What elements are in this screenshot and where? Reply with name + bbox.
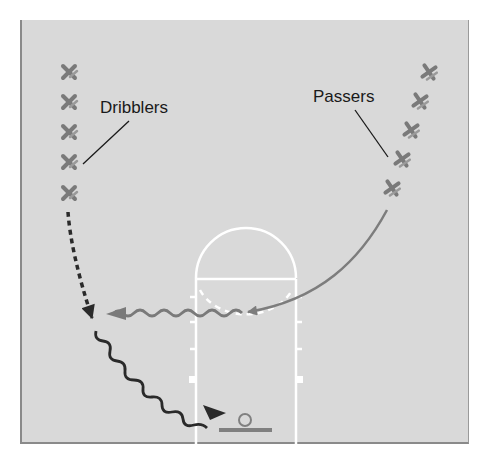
passers-leader-line — [355, 110, 388, 157]
dribble-arrowhead — [203, 405, 226, 420]
passer-markers — [381, 61, 440, 199]
dribbler-x-icon — [63, 187, 77, 199]
passer-plus-icon — [400, 119, 422, 141]
dribbler-x-icon — [63, 96, 77, 108]
dribbler-x-icon — [63, 66, 77, 78]
dribble-arrowhead — [106, 307, 126, 320]
dribblers-label: Dribblers — [100, 98, 168, 118]
dribbler-x-icon — [63, 156, 77, 168]
passer-plus-icon — [391, 148, 413, 170]
basket-icon — [219, 414, 272, 432]
drill-diagram — [0, 0, 485, 459]
pass-arrow — [248, 210, 387, 312]
cut-path-arrow — [68, 212, 92, 318]
dribbler-markers — [63, 66, 77, 199]
dribble-path-to-wing — [114, 310, 242, 316]
passers-label: Passers — [313, 87, 374, 107]
passer-plus-icon — [381, 177, 403, 199]
passer-plus-icon — [409, 90, 431, 112]
dribblers-leader-line — [83, 121, 129, 164]
dribbler-x-icon — [63, 126, 77, 138]
passer-plus-icon — [418, 61, 440, 83]
